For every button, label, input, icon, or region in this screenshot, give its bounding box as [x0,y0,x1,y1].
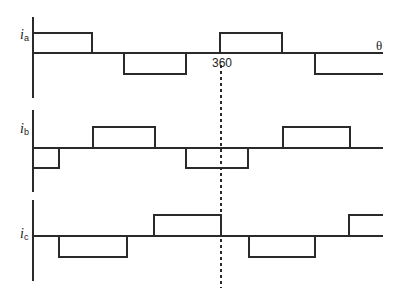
waveform-diagram [0,0,403,303]
phase-a-label: ia [20,28,29,43]
phase-b-label: ib [20,122,29,137]
marker-360-label: 360 [212,56,232,70]
theta-axis-label: θ [376,38,382,54]
phase-c-label: ic [20,227,28,242]
